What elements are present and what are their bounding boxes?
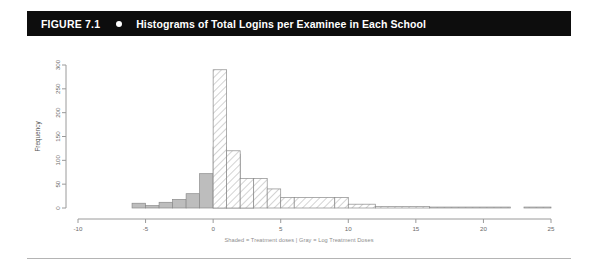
histogram-bar xyxy=(173,199,187,208)
histogram-bar xyxy=(200,174,214,208)
histogram-plot: 050100150200250300Frequency-10-505101520… xyxy=(0,36,598,250)
x-tick-label: 20 xyxy=(480,225,487,232)
histogram-bar xyxy=(335,198,349,208)
histogram-bar xyxy=(213,70,227,208)
y-tick-label: 0 xyxy=(54,206,61,210)
figure-caption: Shaded = Treatment doses | Gray = Log Tr… xyxy=(0,237,598,243)
histogram-bar xyxy=(524,207,551,208)
histogram-bar xyxy=(254,178,268,208)
histogram-bar xyxy=(267,189,281,208)
bottom-divider xyxy=(27,258,571,259)
x-tick-label: 15 xyxy=(412,225,419,232)
y-axis-title: Frequency xyxy=(34,121,42,152)
histogram-bar xyxy=(227,151,241,208)
histogram-bar xyxy=(348,204,375,208)
histogram-svg: 050100150200250300Frequency-10-505101520… xyxy=(0,36,598,250)
histogram-bar xyxy=(294,198,335,208)
histogram-bar xyxy=(429,207,510,208)
figure-title: Histograms of Total Logins per Examinee … xyxy=(136,18,426,30)
figure-page: FIGURE 7.1 Histograms of Total Logins pe… xyxy=(0,0,598,272)
histogram-bar xyxy=(281,198,295,208)
filled-circle-icon xyxy=(116,21,122,27)
y-tick-label: 300 xyxy=(54,59,61,70)
y-tick-label: 50 xyxy=(54,180,61,187)
histogram-bar xyxy=(186,194,200,208)
y-tick-label: 200 xyxy=(54,107,61,118)
histogram-bar xyxy=(375,207,429,208)
x-tick-label: 10 xyxy=(345,225,352,232)
histogram-bar xyxy=(159,202,173,208)
figure-number: FIGURE 7.1 xyxy=(41,18,100,30)
x-tick-label: 5 xyxy=(279,225,283,232)
figure-header-bar: FIGURE 7.1 Histograms of Total Logins pe… xyxy=(27,11,571,36)
histogram-bar xyxy=(240,178,254,208)
x-tick-label: 0 xyxy=(211,225,215,232)
y-tick-label: 100 xyxy=(54,155,61,166)
y-tick-label: 150 xyxy=(54,131,61,142)
histogram-bar xyxy=(146,206,160,208)
x-tick-label: 25 xyxy=(548,225,555,232)
histogram-bar xyxy=(132,203,146,208)
x-tick-label: -10 xyxy=(74,225,84,232)
bars-layer xyxy=(132,70,551,208)
y-tick-label: 250 xyxy=(54,83,61,94)
x-tick-label: -5 xyxy=(143,225,149,232)
